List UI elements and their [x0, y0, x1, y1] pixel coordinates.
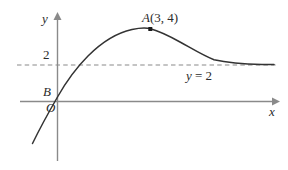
graph-figure: y x 2 B O A(3, 4) y = 2	[0, 0, 288, 170]
origin-label: O	[46, 101, 55, 114]
point-a-label: A(3, 4)	[142, 11, 178, 24]
asymptote-label-equation: = 2	[192, 68, 212, 83]
x-axis-label: x	[269, 105, 275, 118]
curve-path	[33, 28, 275, 144]
y-axis-label: y	[42, 12, 48, 25]
point-a-name: A	[142, 10, 150, 25]
y-axis-arrow-icon	[54, 12, 62, 20]
y-axis	[54, 12, 62, 161]
asymptote-label: y = 2	[186, 69, 212, 82]
x-axis	[20, 98, 280, 106]
point-b-label: B	[43, 85, 51, 98]
point-a-marker	[148, 27, 152, 31]
y-tick-label-2: 2	[43, 48, 50, 61]
point-a-coords: (3, 4)	[150, 10, 178, 25]
